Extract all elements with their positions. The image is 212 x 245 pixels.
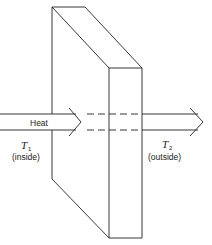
heat-path-dashed: [87, 114, 142, 130]
heat-label: Heat: [30, 118, 49, 128]
wall-top-left-diag: [52, 7, 109, 68]
t2-subscript: 2: [169, 145, 173, 151]
t1-symbol: T: [21, 139, 28, 151]
heat-conduction-diagram: Heat T 1 (inside) T 2 (outside): [0, 0, 212, 245]
heat-arrow-out: [142, 108, 203, 136]
wall-slab: [52, 7, 142, 238]
wall-top-right-diag: [85, 7, 142, 68]
wall-bottom-diag: [52, 179, 109, 238]
outside-label: (outside): [148, 152, 181, 162]
t2-symbol: T: [162, 138, 169, 150]
inside-label: (inside): [12, 152, 40, 162]
